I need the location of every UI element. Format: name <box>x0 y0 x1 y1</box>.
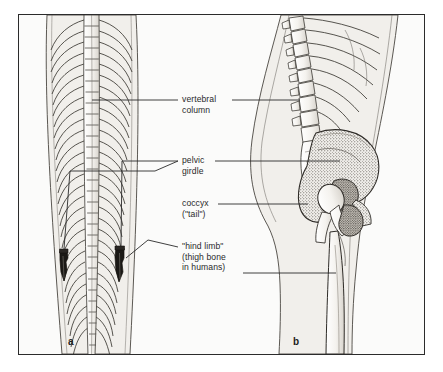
label-pelvic-girdle: pelvic girdle <box>182 155 204 176</box>
label-hind-limb-line3: in humans) <box>182 262 226 273</box>
label-hind-limb: "hind limb" (thigh bone in humans) <box>182 241 226 273</box>
panel-b-human-skeleton <box>251 15 398 354</box>
label-vertebral-column-line2: column <box>182 105 216 116</box>
label-hind-limb-line2: (thigh bone <box>182 252 226 263</box>
label-pelvic-girdle-line1: pelvic <box>182 155 204 166</box>
figure-root: vertebral column pelvic girdle coccyx ("… <box>0 0 443 372</box>
label-hind-limb-line1: "hind limb" <box>182 241 226 252</box>
panel-letter-b: b <box>293 336 299 347</box>
label-coccyx: coccyx ("tail") <box>182 198 209 219</box>
label-coccyx-line1: coccyx <box>182 198 209 209</box>
anatomical-illustration <box>0 0 443 372</box>
label-vertebral-column-line1: vertebral <box>182 94 216 105</box>
label-vertebral-column: vertebral column <box>182 94 216 115</box>
label-pelvic-girdle-line2: girdle <box>182 166 204 177</box>
panel-a-snake-skeleton <box>46 15 138 356</box>
label-coccyx-line2: ("tail") <box>182 209 209 220</box>
panel-letter-a: a <box>68 336 74 347</box>
